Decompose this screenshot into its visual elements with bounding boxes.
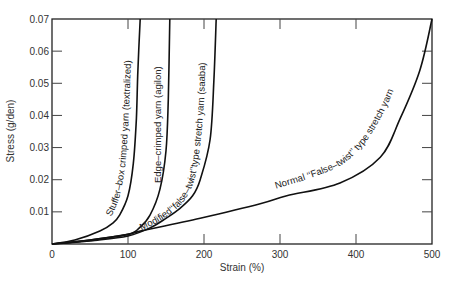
y-axis-label: Stress (g/den) <box>5 100 16 163</box>
x-tick-label: 100 <box>120 249 137 260</box>
curve-modified-false-twist <box>52 19 216 244</box>
y-tick-label: 0.07 <box>30 14 50 25</box>
y-tick-label: 0.02 <box>30 174 50 185</box>
y-tick-label: 0.01 <box>30 206 50 217</box>
label-edge-crimped: Edge–crimped yarn (agilon) <box>152 66 163 183</box>
label-normal-false-twist: Normal ‘‘False–twist’’ type stretch yarn <box>274 87 396 191</box>
x-axis-label: Strain (%) <box>220 262 264 273</box>
x-tick-label: 200 <box>196 249 213 260</box>
label-modified-false-twist: Modified‘‘false–twist’’type stretch yarn… <box>138 62 207 232</box>
x-tick-label: 400 <box>348 249 365 260</box>
x-tick-label: 500 <box>424 249 441 260</box>
curve-labels: Stuffer–box crimped yarn (textralized)Ed… <box>103 19 409 232</box>
x-axis-ticks: 0100200300400500 <box>49 19 441 260</box>
normal-label-textpath: Normal ‘‘False–twist’’ type stretch yarn <box>274 87 396 191</box>
y-tick-label: 0.03 <box>30 142 50 153</box>
x-tick-label: 300 <box>272 249 289 260</box>
modified-label-textpath: Modified‘‘false–twist’’type stretch yarn… <box>138 62 207 232</box>
stress-strain-chart: 0100200300400500 0.010.020.030.040.050.0… <box>0 0 454 281</box>
y-axis-ticks: 0.010.020.030.040.050.060.07 <box>30 14 432 218</box>
y-tick-label: 0.04 <box>30 110 50 121</box>
y-tick-label: 0.06 <box>30 46 50 57</box>
y-tick-label: 0.05 <box>30 78 50 89</box>
x-tick-label: 0 <box>49 249 55 260</box>
